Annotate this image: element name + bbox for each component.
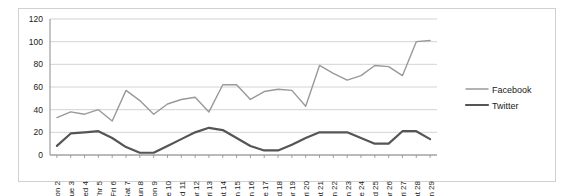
x-tick-tue-10: Tue 10 [164,180,173,196]
x-tick-tue-3: Tue 3 [67,180,76,196]
y-tick-120: 120 [29,14,43,24]
x-tick-mon-23: Mon 23 [344,180,353,196]
x-tick-sun-22: Sun 22 [330,180,339,196]
y-tick-0: 0 [38,150,43,160]
line-chart: 020406080100120 Mon 2Tue 3Wed 4Thr 5Fri … [0,0,570,196]
x-tick-sun-15: Sun 15 [233,180,242,196]
x-tick-tue-24: Tue 24 [357,180,366,196]
series-line-facebook [57,41,430,121]
legend-label-twitter: Twitter [492,101,519,111]
x-tick-wed-25: Wed 25 [371,180,380,196]
x-tick-sun-8: Sun 8 [136,180,145,196]
x-axis-tick-labels: Mon 2Tue 3Wed 4Thr 5Fri 6Sat 7Sun 8Mon 9… [53,180,435,196]
x-tick-fri-6: Fri 6 [109,180,118,196]
x-tick-thr-26: Thr 26 [385,180,394,196]
x-tick-tue-17: Tue 17 [261,180,270,196]
x-tick-thr-12: Thr 12 [192,180,201,196]
data-series [57,41,430,153]
x-tick-thr-19: Thr 19 [288,180,297,196]
y-axis-tick-labels: 020406080100120 [29,14,43,160]
y-tick-60: 60 [34,82,44,92]
y-tick-40: 40 [34,105,44,115]
x-tick-fri-13: Fri 13 [205,180,214,196]
chart-legend: FacebookTwitter [466,85,532,111]
x-tick-wed-11: Wed 11 [178,180,187,196]
series-line-twitter [57,128,430,153]
x-tick-fri-27: Fri 27 [399,180,408,196]
x-tick-sun-29: Sun 29 [427,180,436,196]
x-tick-fri-20: Fri 20 [302,180,311,196]
x-tick-sat-7: Sat 7 [123,180,132,196]
y-tick-80: 80 [34,59,44,69]
legend-label-facebook: Facebook [492,85,532,95]
x-tick-mon-16: Mon 16 [247,180,256,196]
x-tick-wed-4: Wed 4 [81,180,90,196]
x-tick-sat-14: Sat 14 [219,180,228,196]
y-tick-20: 20 [34,127,44,137]
x-tick-wed-18: Wed 18 [275,180,284,196]
x-tick-sat-21: Sat 21 [316,180,325,196]
x-tick-mon-9: Mon 9 [150,180,159,196]
x-tick-mon-2: Mon 2 [53,180,62,196]
x-tick-sat-28: Sat 28 [413,180,422,196]
y-tick-100: 100 [29,37,43,47]
gridlines [50,19,437,155]
x-tick-thr-5: Thr 5 [95,180,104,196]
